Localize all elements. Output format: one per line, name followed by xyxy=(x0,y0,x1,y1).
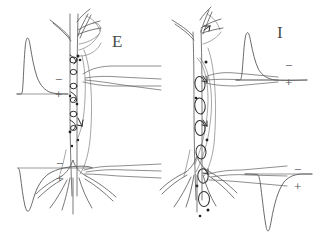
plus-sign-lower-left: + xyxy=(56,172,63,185)
upper-right-epsp-trace xyxy=(236,33,307,81)
recording-electrode-soma-right xyxy=(209,166,287,186)
plus-sign-upper-left: + xyxy=(55,88,62,101)
minus-sign-lower-left: − xyxy=(56,157,63,170)
plus-sign-lower-right: + xyxy=(294,180,301,193)
minus-sign-lower-right: − xyxy=(294,163,301,176)
condition-label-I: I xyxy=(277,24,283,41)
recording-electrode-soma-left xyxy=(84,164,161,178)
recording-electrode-apical-left xyxy=(83,66,161,90)
lower-right-ipsp-trace xyxy=(245,174,312,231)
pyramidal-neuron-right xyxy=(160,7,287,217)
plus-sign-upper-right: + xyxy=(285,76,292,89)
neuron-recording-figure: .s {fill:none;stroke:#555;stroke-width:0… xyxy=(0,0,322,249)
minus-sign-upper-right: − xyxy=(285,59,292,72)
condition-label-E: E xyxy=(112,33,122,50)
pyramidal-neuron-left xyxy=(36,9,161,214)
minus-sign-upper-left: − xyxy=(55,73,62,86)
figure-drawing: .s {fill:none;stroke:#555;stroke-width:0… xyxy=(0,0,322,249)
